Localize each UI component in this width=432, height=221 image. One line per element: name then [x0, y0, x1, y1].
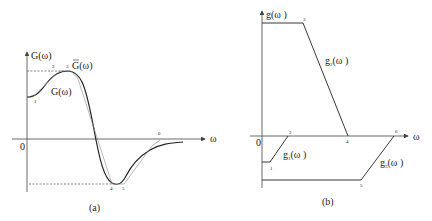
- panel-a-point-6: 6: [158, 131, 161, 136]
- panel-a-y-label: G(ω): [31, 50, 51, 62]
- panel-b: g(ω ) ω 0 g2(ω ) g1(ω ) g3(ω ) 1 2 3 4 5…: [250, 9, 420, 208]
- panel-b-y-label: g(ω ): [266, 9, 287, 21]
- panel-a-approx: [27, 71, 160, 184]
- panel-b-g2-segment: [262, 23, 348, 136]
- panel-a-point-5: 5: [122, 186, 125, 191]
- panel-a-point-2: 2: [52, 64, 55, 69]
- panel-a: G(ω) ω 0 G(ω) G(ω) 1 2 3 4 5 6 (a): [12, 50, 217, 214]
- panel-b-point-6: 6: [395, 129, 398, 134]
- panel-a-point-1: 1: [34, 99, 37, 104]
- panel-b-point-4: 4: [346, 139, 349, 144]
- panel-b-point-3: 3: [303, 17, 306, 22]
- panel-b-g1-label: g1(ω ): [283, 149, 306, 161]
- panel-b-g3-label: g3(ω ): [380, 157, 403, 169]
- panel-a-x-label: ω: [210, 133, 217, 144]
- figure-canvas: G(ω) ω 0 G(ω) G(ω) 1 2 3 4 5 6 (a) g(ω )…: [0, 0, 432, 221]
- panel-b-x-label: ω: [413, 131, 420, 142]
- panel-a-approx-label: G(ω): [72, 60, 92, 72]
- panel-b-point-1: 1: [270, 166, 273, 171]
- panel-a-point-3: 3: [66, 64, 69, 69]
- panel-b-g3-segment: [262, 136, 394, 180]
- panel-b-origin: 0: [256, 137, 261, 148]
- panel-b-caption: (b): [322, 196, 334, 208]
- panel-a-point-4: 4: [110, 186, 113, 191]
- panel-a-curve-label: G(ω): [51, 86, 71, 98]
- panel-b-point-5: 5: [360, 183, 363, 188]
- panel-a-origin: 0: [20, 141, 25, 152]
- panel-a-caption: (a): [89, 202, 100, 214]
- panel-b-point-2: 2: [289, 130, 292, 135]
- panel-b-g2-label: g2(ω ): [325, 55, 348, 67]
